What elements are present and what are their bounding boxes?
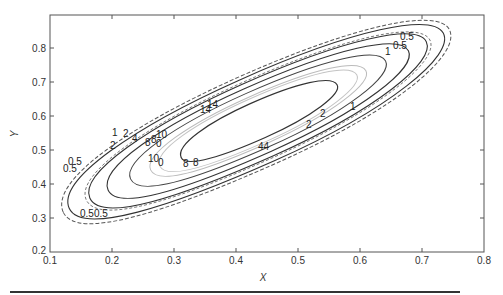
y-axis-label: Y bbox=[9, 129, 20, 137]
contour-label: 0.50.5 bbox=[80, 208, 108, 219]
contour-label: 8 bbox=[193, 157, 199, 168]
contour-1 bbox=[73, 9, 444, 231]
x-tick-labels: 0.1 0.2 0.3 0.4 0.5 0.6 0.7 0.8 bbox=[43, 255, 491, 266]
contour-label: 2 bbox=[110, 140, 116, 151]
contour-label: 0 bbox=[158, 157, 164, 168]
contour-label: 2 bbox=[320, 108, 326, 119]
y-tick-label: 0.4 bbox=[32, 179, 46, 190]
y-tick-label: 0.8 bbox=[32, 43, 46, 54]
contour-label: 1 bbox=[350, 101, 356, 112]
y-tick-labels: 0.2 0.3 0.4 0.5 0.6 0.7 0.8 bbox=[32, 43, 46, 256]
contour-label: 44 bbox=[258, 141, 270, 152]
contour-label: 0.5 bbox=[63, 163, 77, 174]
x-tick-label: 0.3 bbox=[167, 255, 181, 266]
y-tick-label: 0.7 bbox=[32, 77, 46, 88]
contour-label: 0 bbox=[156, 138, 162, 149]
x-tick-label: 0.4 bbox=[229, 255, 243, 266]
contour-labels: 0.5 0.5 0.50.5 1 2 2 4 8 8 10 0 10 0 8 8… bbox=[63, 31, 414, 219]
contour-label: 2 bbox=[123, 128, 129, 139]
contour-label: 14 bbox=[207, 99, 219, 110]
contour-label: 4 bbox=[132, 133, 138, 144]
x-tick-label: 0.7 bbox=[415, 255, 429, 266]
y-tick-label: 0.3 bbox=[32, 213, 46, 224]
contour-8 bbox=[140, 49, 377, 191]
x-tick-label: 0.1 bbox=[43, 255, 57, 266]
x-tick-label: 0.5 bbox=[291, 255, 305, 266]
contour-label: 0.5 bbox=[400, 31, 414, 42]
contour-label: 1 bbox=[385, 46, 391, 57]
contour-label: 8 bbox=[183, 158, 189, 169]
contour-1-dashed bbox=[68, 6, 447, 234]
x-tick-label: 0.2 bbox=[105, 255, 119, 266]
contour-label: 1 bbox=[112, 127, 118, 138]
contour-chart: 0.5 0.5 0.50.5 1 2 2 4 8 8 10 0 10 0 8 8… bbox=[0, 0, 503, 295]
contour-label: 2 bbox=[306, 119, 312, 130]
y-tick-label: 0.2 bbox=[32, 245, 46, 256]
x-tick-label: 0.8 bbox=[477, 255, 491, 266]
y-tick-label: 0.6 bbox=[32, 111, 46, 122]
contour-2 bbox=[93, 22, 423, 219]
y-tick-label: 0.5 bbox=[32, 145, 46, 156]
x-tick-label: 0.6 bbox=[353, 255, 367, 266]
x-axis-label: X bbox=[259, 272, 267, 283]
